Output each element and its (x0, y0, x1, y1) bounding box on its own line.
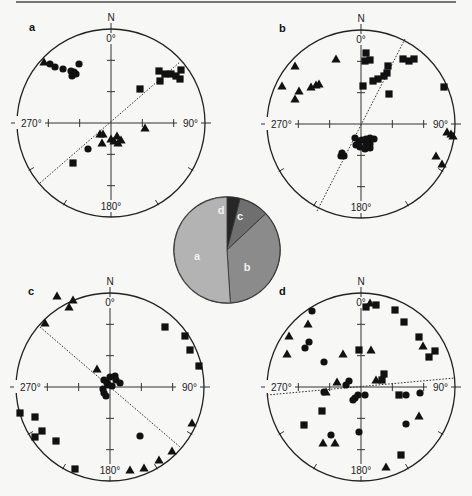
data-point-circle (116, 379, 123, 386)
data-point-square (391, 306, 398, 313)
data-point-square (177, 66, 184, 73)
north-label: N (107, 12, 114, 23)
data-point-square (181, 332, 188, 339)
deg-180-label: 180° (100, 465, 121, 476)
data-point-circle (402, 420, 409, 427)
data-point-circle (416, 389, 423, 396)
data-point-square (372, 301, 379, 308)
data-point-square (369, 77, 376, 84)
pie-label-a: a (194, 250, 201, 262)
data-point-square (71, 465, 78, 472)
data-point-circle (320, 388, 327, 395)
data-point-square (415, 333, 422, 340)
data-point-circle (72, 70, 79, 77)
data-point-circle (108, 382, 115, 389)
data-point-square (161, 323, 168, 330)
data-point-square (359, 82, 366, 89)
data-point-circle (361, 391, 368, 398)
data-point-square (425, 353, 432, 360)
pie-label-d: d (218, 204, 225, 216)
data-point-square (378, 376, 385, 383)
pie-label-c: c (237, 210, 243, 222)
deg-0-label: 0° (106, 33, 116, 44)
data-point-circle (320, 358, 327, 365)
deg-90-label: 90° (182, 382, 197, 393)
data-point-square (440, 83, 447, 90)
data-point-square (195, 362, 202, 369)
data-point-circle (349, 396, 356, 403)
data-point-square (16, 409, 23, 416)
data-point-circle (51, 63, 58, 70)
data-point-circle (136, 432, 143, 439)
pie-label-b: b (244, 261, 251, 273)
data-point-circle (402, 391, 409, 398)
data-point-square (156, 77, 163, 84)
data-point-circle (102, 392, 109, 399)
deg-180-label: 180° (351, 202, 372, 213)
panel-label: c (28, 285, 34, 297)
data-point-circle (84, 145, 91, 152)
north-label: N (357, 13, 364, 24)
data-point-square (395, 391, 402, 398)
data-point-circle (366, 144, 373, 151)
data-point-square (355, 346, 362, 353)
data-point-square (38, 427, 45, 434)
data-point-circle (305, 338, 312, 345)
data-point-square (410, 55, 417, 62)
data-point-circle (308, 307, 315, 314)
data-point-circle (355, 428, 362, 435)
deg-90-label: 90° (433, 382, 448, 393)
data-point-circle (75, 60, 82, 67)
pie-chart: dcba (173, 196, 281, 304)
data-point-square (176, 75, 183, 82)
data-point-circle (342, 381, 349, 388)
stereonet-figure: aN0°270°90°180°bN0°270°90°180°cN0°270°90… (0, 0, 472, 496)
data-point-square (318, 407, 325, 414)
data-point-square (366, 56, 373, 63)
deg-90-label: 90° (183, 118, 198, 129)
deg-180-label: 180° (101, 201, 122, 212)
panel-label: d (279, 285, 286, 297)
data-point-square (31, 433, 38, 440)
deg-180-label: 180° (351, 465, 372, 476)
data-point-circle (337, 152, 344, 159)
panel-label: a (29, 21, 36, 33)
data-point-circle (59, 65, 66, 72)
deg-270-label: 270° (271, 119, 292, 130)
data-point-square (69, 159, 76, 166)
data-point-circle (301, 344, 308, 351)
data-point-square (400, 318, 407, 325)
deg-0-label: 0° (356, 34, 366, 45)
data-point-square (300, 421, 307, 428)
data-point-circle (327, 431, 334, 438)
data-point-square (186, 346, 193, 353)
data-point-square (385, 90, 392, 97)
deg-0-label: 0° (105, 297, 115, 308)
deg-270-label: 270° (21, 118, 42, 129)
data-point-square (362, 49, 369, 56)
north-label: N (357, 276, 364, 287)
data-point-square (362, 303, 369, 310)
deg-270-label: 270° (271, 382, 292, 393)
deg-270-label: 270° (20, 382, 41, 393)
data-point-square (136, 85, 143, 92)
deg-90-label: 90° (433, 119, 448, 130)
panel-label: b (279, 22, 286, 34)
data-point-square (31, 413, 38, 420)
data-point-square (52, 437, 59, 444)
data-point-square (397, 451, 404, 458)
data-point-square (384, 62, 391, 69)
north-label: N (106, 276, 113, 287)
